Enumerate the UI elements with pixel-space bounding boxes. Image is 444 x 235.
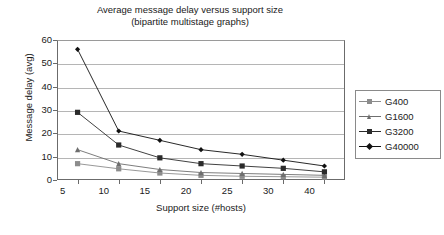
- legend-marker-icon: [367, 99, 372, 104]
- legend-swatch-icon: [359, 127, 381, 137]
- data-point-marker: [75, 47, 80, 52]
- y-tick-label: 20: [28, 127, 52, 138]
- data-point-marker: [116, 128, 121, 133]
- x-tick-mark: [324, 180, 325, 184]
- x-tick-mark: [78, 180, 79, 184]
- x-tick-mark: [283, 180, 284, 184]
- data-point-marker: [116, 166, 121, 171]
- legend-item-G40000[interactable]: G40000: [356, 139, 440, 154]
- data-point-marker: [240, 152, 245, 157]
- data-point-marker: [322, 169, 327, 174]
- legend-marker-icon: [366, 143, 373, 150]
- x-tick-mark: [119, 180, 120, 184]
- data-point-marker: [198, 161, 203, 166]
- legend-swatch-icon: [359, 142, 381, 152]
- y-tick-mark: [53, 180, 57, 181]
- data-point-marker: [281, 158, 286, 163]
- legend-item-G400[interactable]: G400: [356, 94, 440, 109]
- x-tick-label: 30: [253, 185, 283, 196]
- x-tick-label: 40: [294, 185, 324, 196]
- x-tick-label: 25: [212, 185, 242, 196]
- chart-figure: Average message delay versus support siz…: [0, 0, 444, 235]
- legend-swatch-icon: [359, 97, 381, 107]
- y-tick-label: 0: [28, 174, 52, 185]
- legend-label: G400: [385, 96, 408, 107]
- legend-item-G1600[interactable]: G1600: [356, 109, 440, 124]
- data-point-marker: [157, 155, 162, 160]
- y-tick-label: 10: [28, 151, 52, 162]
- x-tick-label: 20: [171, 185, 201, 196]
- x-tick-mark: [242, 180, 243, 184]
- data-point-marker: [198, 147, 203, 152]
- legend-label: G3200: [385, 126, 414, 137]
- series-layer: [57, 40, 345, 180]
- data-point-marker: [240, 163, 245, 168]
- y-tick-label: 40: [28, 81, 52, 92]
- series-G40000: [75, 47, 327, 169]
- x-tick-label: 5: [48, 185, 78, 196]
- legend-item-G3200[interactable]: G3200: [356, 124, 440, 139]
- x-tick-label: 10: [89, 185, 119, 196]
- x-tick-mark: [201, 180, 202, 184]
- legend-label: G1600: [385, 111, 414, 122]
- legend-swatch-icon: [359, 112, 381, 122]
- data-point-marker: [116, 142, 121, 147]
- x-tick-mark: [160, 180, 161, 184]
- legend-marker-icon: [367, 114, 371, 119]
- y-tick-label: 30: [28, 104, 52, 115]
- data-point-marker: [322, 163, 327, 168]
- data-point-marker: [75, 147, 80, 152]
- data-point-marker: [75, 110, 80, 115]
- data-point-marker: [157, 138, 162, 143]
- chart-title: Average message delay versus support siz…: [40, 4, 340, 28]
- chart-title-line2: (bipartite multistage graphs): [131, 16, 249, 27]
- y-tick-label: 60: [28, 34, 52, 45]
- y-tick-label: 50: [28, 57, 52, 68]
- data-point-marker: [75, 161, 80, 166]
- data-point-marker: [281, 166, 286, 171]
- legend-marker-icon: [367, 129, 372, 134]
- chart-title-line1: Average message delay versus support siz…: [97, 4, 283, 15]
- legend-label: G40000: [385, 141, 419, 152]
- x-axis-label: Support size (#hosts): [57, 202, 345, 213]
- chart-legend: G400G1600G3200G40000: [355, 90, 441, 159]
- x-tick-label: 15: [130, 185, 160, 196]
